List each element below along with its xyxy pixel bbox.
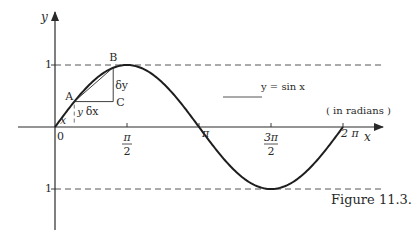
figure-caption: Figure 11.3. [331, 192, 412, 207]
point-label-a: A [64, 90, 74, 103]
point-label-c: C [116, 96, 124, 109]
x-tick-label-pi-over-2-num: π [122, 131, 131, 144]
y-axis-label: y [40, 10, 48, 24]
x-axis-label: x [364, 130, 371, 144]
x-distance-label: x [60, 114, 67, 127]
point-label-b: B [109, 51, 117, 64]
delta-x-label: δx [86, 105, 100, 118]
x-tick-label-0: 0 [57, 130, 64, 143]
y-height-label: y [76, 106, 83, 117]
x-tick-label-pi-over-2-den: 2 [123, 145, 130, 158]
x-tick-label-2pi: 2 π [340, 127, 359, 140]
y-tick-label-neg-1: 1 [45, 182, 52, 195]
sine-diagram: y x 1 1 0 π 2 π 3π 2 2 π A B C δx δy x y… [0, 0, 415, 244]
x-tick-label-pi: π [201, 127, 210, 140]
x-tick-label-3pi-over-2-num: 3π [264, 131, 279, 144]
delta-y-label: δy [115, 79, 129, 92]
x-tick-label-3pi-over-2-den: 2 [267, 145, 274, 158]
units-note: ( in radians ) [326, 105, 391, 116]
chord-ab [74, 67, 113, 101]
equation-label: y = sin x [260, 81, 305, 92]
y-tick-label-1: 1 [45, 58, 52, 71]
